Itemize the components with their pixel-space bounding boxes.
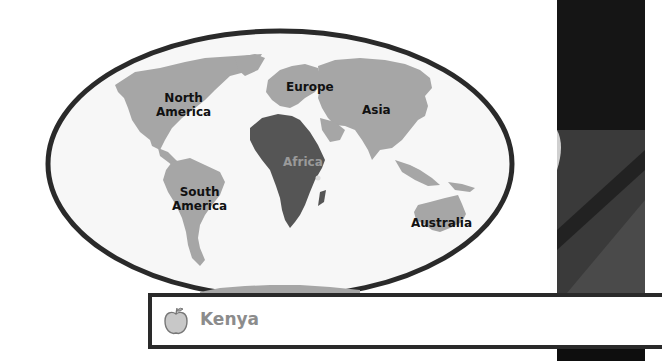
label-australia: Australia: [411, 216, 472, 230]
background-photo: [557, 0, 645, 293]
country-info-box: Kenya: [148, 293, 662, 349]
label-north-america: North America: [156, 91, 211, 119]
photo-texture: [557, 0, 645, 293]
label-north-america-line1: North: [156, 91, 211, 105]
label-europe: Europe: [286, 80, 334, 94]
kenya-marker[interactable]: [316, 176, 321, 181]
apple-icon: [162, 305, 190, 337]
label-north-america-line2: America: [156, 105, 211, 119]
label-south-america-line1: South: [172, 185, 227, 199]
country-name: Kenya: [200, 309, 259, 329]
label-south-america: South America: [172, 185, 227, 213]
label-asia: Asia: [362, 103, 391, 117]
label-africa: Africa: [283, 155, 323, 169]
label-south-america-line2: America: [172, 199, 227, 213]
